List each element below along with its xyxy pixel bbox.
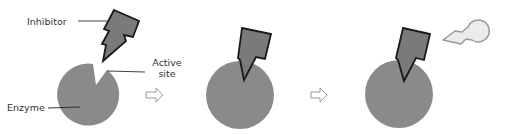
enzyme-3 bbox=[365, 60, 433, 128]
active-site-label: Active site bbox=[147, 57, 187, 79]
active-site-label-line2: site bbox=[147, 68, 187, 79]
step-arrow-2 bbox=[311, 88, 327, 102]
inhibitor-label: Inhibitor bbox=[27, 16, 67, 27]
inhibitor-1 bbox=[102, 10, 139, 61]
step-arrow-1 bbox=[146, 88, 163, 102]
active-site-leader-line bbox=[107, 71, 145, 72]
enzyme-2 bbox=[206, 61, 274, 129]
active-site-label-line1: Active bbox=[147, 57, 187, 68]
enzyme-1-body bbox=[57, 64, 119, 126]
enzyme-label: Enzyme bbox=[7, 102, 45, 113]
substrate-shape bbox=[443, 20, 489, 44]
inhibition-diagram bbox=[0, 0, 505, 134]
